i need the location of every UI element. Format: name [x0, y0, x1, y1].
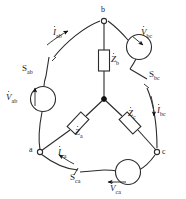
sab-subscript: ab — [27, 69, 33, 75]
terminal-a — [37, 149, 42, 154]
wire-vbc-to-sbc — [130, 59, 136, 69]
switch-label-sab: Sab — [22, 64, 33, 75]
circuit-diagram: b a c Vab Vbc Vca Zb Za Zc Sab Sbc Sca I… — [0, 0, 186, 199]
za-subscript: a — [80, 133, 83, 139]
neutral-junction — [102, 97, 107, 102]
voltage-source-vca — [116, 160, 141, 185]
switch-sca-blade[interactable] — [80, 170, 104, 172]
switch-label-sca: Sca — [70, 173, 80, 184]
wire-zc-to-c — [138, 130, 156, 150]
node-label-c: c — [162, 148, 166, 156]
wire-a-to-vab — [39, 112, 42, 150]
switch-sab-contact — [52, 57, 56, 61]
switch-sbc-contact — [144, 84, 149, 88]
terminal-b — [101, 18, 106, 23]
zb-symbol: Z — [111, 55, 116, 64]
switch-label-sbc: Sbc — [149, 70, 160, 81]
wire-vca-to-sca — [104, 170, 116, 171]
load-leg-b — [99, 23, 110, 98]
vab-symbol: V — [6, 93, 12, 102]
switch-sbc-blade[interactable] — [130, 69, 147, 79]
zc-symbol: Z — [128, 109, 133, 118]
wire-sab-to-b — [54, 21, 100, 57]
impedance-label-zc: Zc — [128, 109, 136, 120]
wire-neutral-to-za — [86, 100, 103, 116]
source-label-vbc: Vbc — [141, 28, 152, 39]
ibc-symbol: I — [157, 106, 160, 115]
vab-subscript: ab — [12, 98, 18, 104]
ica-symbol: I — [58, 148, 61, 157]
terminal-c — [154, 149, 159, 154]
source-label-vab: Vab — [6, 93, 17, 104]
wire-b-to-vbc — [108, 21, 128, 40]
source-label-vca: Vca — [110, 184, 121, 195]
iab-symbol: I — [53, 28, 56, 37]
zc-subscript: c — [133, 114, 136, 120]
circuit-svg — [0, 0, 186, 199]
za-symbol: Z — [75, 128, 80, 137]
impedance-label-zb: Zb — [111, 55, 119, 66]
wire-sbc-to-c — [147, 88, 157, 148]
iab-subscript: ab — [56, 33, 62, 39]
current-label-ibc: Ibc — [157, 106, 166, 117]
vbc-symbol: V — [141, 28, 147, 37]
impedance-label-za: Za — [75, 128, 83, 139]
branch-a-b — [31, 21, 101, 150]
current-label-iab: Iab — [53, 28, 62, 39]
wire-vab-to-sab — [44, 76, 46, 86]
vca-subscript: ca — [116, 189, 121, 195]
sca-subscript: ca — [75, 178, 80, 184]
ica-subscript: ca — [61, 153, 66, 159]
vca-symbol: V — [110, 184, 116, 193]
current-label-ica: Ica — [58, 148, 66, 159]
impedance-zb — [99, 50, 110, 71]
wire-neutral-to-zc — [105, 100, 122, 116]
node-label-b: b — [101, 6, 105, 14]
node-label-a: a — [29, 146, 33, 154]
sbc-subscript: bc — [154, 75, 160, 81]
zb-subscript: b — [116, 60, 119, 66]
wire-c-to-vca — [139, 155, 155, 170]
vbc-subscript: bc — [147, 33, 153, 39]
voltage-source-vab — [31, 87, 56, 112]
switch-sab-blade[interactable] — [46, 57, 49, 76]
ibc-subscript: bc — [160, 111, 166, 117]
